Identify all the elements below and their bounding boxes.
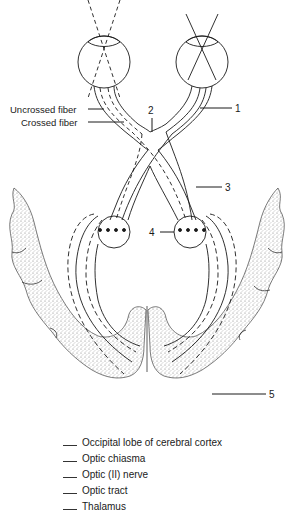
key-label: Optic chiasma bbox=[82, 453, 145, 465]
visual-pathway-diagram bbox=[0, 0, 294, 430]
key-item-optic-tract: Optic tract bbox=[63, 481, 222, 497]
occipital-lobe-right bbox=[148, 188, 284, 378]
answer-blank[interactable] bbox=[63, 493, 77, 494]
crossed-fiber-label: Crossed fiber bbox=[21, 117, 78, 128]
callout-5: 5 bbox=[269, 389, 275, 400]
answer-blank[interactable] bbox=[63, 445, 77, 446]
key-label: Optic tract bbox=[82, 485, 128, 497]
optic-nerves bbox=[94, 86, 212, 150]
answer-key: Occipital lobe of cerebral cortex Optic … bbox=[63, 433, 222, 513]
key-item-occipital-lobe: Occipital lobe of cerebral cortex bbox=[63, 433, 222, 449]
key-item-thalamus: Thalamus bbox=[63, 497, 222, 513]
callout-1: 1 bbox=[235, 103, 241, 114]
key-item-optic-chiasma: Optic chiasma bbox=[63, 449, 222, 465]
key-label: Optic (II) nerve bbox=[82, 469, 148, 481]
key-item-optic-nerve: Optic (II) nerve bbox=[63, 465, 222, 481]
thalamus-left bbox=[98, 216, 130, 248]
right-eye bbox=[176, 14, 228, 88]
left-eye bbox=[78, 0, 130, 98]
callout-4: 4 bbox=[149, 227, 155, 238]
answer-blank[interactable] bbox=[63, 477, 77, 478]
occipital-lobe-left bbox=[10, 188, 146, 378]
key-label: Thalamus bbox=[82, 501, 126, 513]
answer-blank[interactable] bbox=[63, 509, 77, 510]
uncrossed-fiber-label: Uncrossed fiber bbox=[10, 104, 77, 115]
thalamus-right bbox=[174, 216, 206, 248]
optic-tracts bbox=[110, 132, 196, 220]
callout-2: 2 bbox=[148, 105, 154, 116]
answer-blank[interactable] bbox=[63, 461, 77, 462]
callout-3: 3 bbox=[225, 182, 231, 193]
key-label: Occipital lobe of cerebral cortex bbox=[82, 437, 222, 449]
